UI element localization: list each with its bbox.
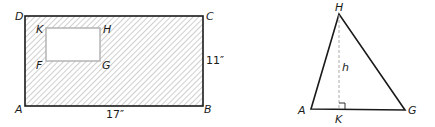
outer-rectangle-group [25,16,203,106]
vertex-label-B: B [204,103,212,116]
right-angle-marker [339,103,345,109]
width-dimension-label: 17″ [106,108,124,121]
vertex-label-A-triangle: A [297,104,306,117]
triangle-HAG [311,14,405,110]
inner-rectangle [46,28,100,61]
vertex-label-D: D [15,10,23,23]
vertex-label-F: F [36,59,43,72]
foot-label-K: K [335,113,343,126]
triangle-group [311,14,405,110]
diagram-canvas: D C A B K H F G 17″ 11″ H A G K h [0,0,435,127]
vertex-label-G: G [102,59,111,72]
altitude-label-h: h [342,61,349,74]
vertex-label-C: C [206,10,214,23]
vertex-label-H-triangle: H [335,1,343,14]
vertex-label-K: K [36,23,44,36]
height-dimension-label: 11″ [206,54,224,67]
vertex-label-A: A [14,103,23,116]
vertex-label-H: H [103,23,111,36]
vertex-label-G-triangle: G [408,104,417,117]
